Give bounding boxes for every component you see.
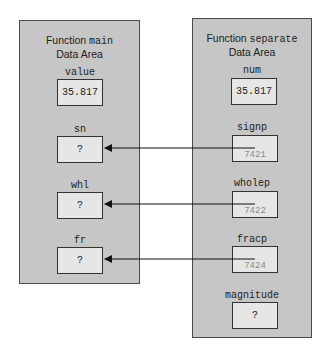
- pointer-arrows: [0, 0, 328, 355]
